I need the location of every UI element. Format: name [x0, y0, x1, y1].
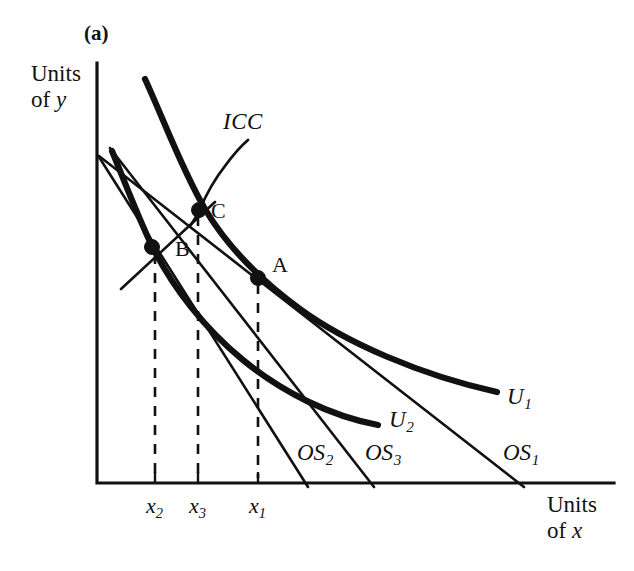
curve-label-os2: OS2: [297, 440, 333, 466]
indifference-curve-diagram: [0, 0, 634, 571]
tick-label-x3-sub: 3: [199, 505, 206, 521]
budget-line-os3: [110, 148, 374, 487]
point-dot-a[interactable]: [251, 271, 266, 286]
x-axis-title-line1: Units: [547, 492, 597, 518]
curve-label-os1-sub: 1: [531, 451, 539, 468]
point-dot-c[interactable]: [192, 203, 207, 218]
point-dot-b[interactable]: [145, 240, 160, 255]
x-axis-ticks: [155, 472, 258, 483]
tick-label-x1-base: x: [249, 493, 259, 518]
y-axis-title-prefix: of: [31, 87, 56, 112]
curve-label-u1-sub: 1: [524, 395, 532, 412]
tick-label-x3-base: x: [189, 493, 199, 518]
point-label-a: A: [272, 253, 288, 278]
curve-label-u1-base: U: [507, 384, 524, 409]
curve-label-os1: OS1: [503, 440, 539, 466]
x-axis-title: Units of x: [547, 492, 597, 544]
curve-label-os1-base: OS: [503, 440, 531, 465]
tick-label-x3: x3: [189, 494, 206, 519]
curve-label-os2-sub: 2: [325, 451, 333, 468]
tick-label-x2-sub: 2: [156, 505, 163, 521]
curve-label-u2: U2: [389, 407, 414, 433]
y-axis-title-line2: of y: [31, 87, 81, 113]
curve-label-os2-base: OS: [297, 440, 325, 465]
icc-label: ICC: [223, 109, 263, 135]
tick-label-x1-sub: 1: [259, 505, 266, 521]
figure-panel-a: (a) Units of y Units of x ICC A B C U1 U…: [0, 0, 634, 571]
curve-label-os3: OS3: [365, 440, 401, 466]
curve-label-os3-sub: 3: [393, 451, 401, 468]
curve-label-os3-base: OS: [365, 440, 393, 465]
curve-label-u2-sub: 2: [406, 418, 414, 435]
y-axis-title-line1: Units: [31, 61, 81, 87]
y-axis-title-variable: y: [56, 87, 66, 112]
budget-line-os1: [99, 156, 524, 487]
curve-label-u2-base: U: [389, 407, 406, 432]
indifference-curve-u2: [112, 151, 378, 425]
point-label-b: B: [175, 237, 190, 262]
panel-tag: (a): [84, 22, 109, 46]
y-axis-title: Units of y: [31, 61, 81, 113]
tick-label-x1: x1: [249, 494, 266, 519]
tick-label-x2-base: x: [146, 493, 156, 518]
point-label-c: C: [211, 199, 226, 224]
x-axis-title-prefix: of: [547, 518, 572, 543]
tick-label-x2: x2: [146, 494, 163, 519]
x-axis-title-line2: of x: [547, 518, 597, 544]
x-axis-title-variable: x: [572, 518, 582, 543]
curve-label-u1: U1: [507, 384, 532, 410]
